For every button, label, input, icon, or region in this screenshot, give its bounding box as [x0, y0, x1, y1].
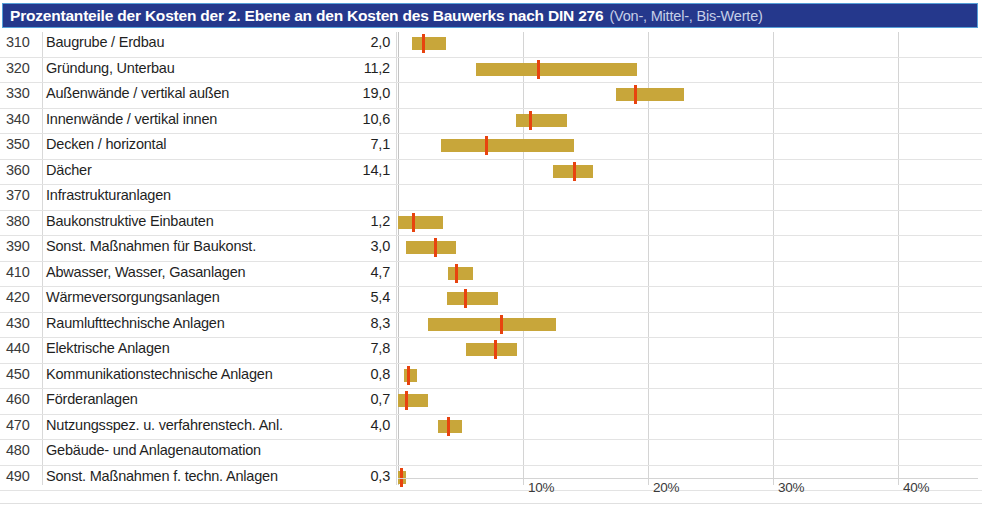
- range-bar[interactable]: [441, 139, 575, 152]
- data-rows: 310Baugrube / Erdbau2,0320Gründung, Unte…: [0, 32, 982, 491]
- mean-marker[interactable]: [422, 34, 425, 53]
- row-label: Dächer: [46, 162, 346, 178]
- mean-marker[interactable]: [500, 315, 503, 334]
- row-code: 380: [6, 213, 42, 229]
- range-bar[interactable]: [438, 420, 462, 433]
- row-value: 4,7: [330, 264, 390, 280]
- mean-marker[interactable]: [447, 417, 450, 436]
- x-tick-label-10: 10%: [528, 480, 554, 495]
- x-tick-label-40: 40%: [903, 480, 929, 495]
- table-row[interactable]: 380Baukonstruktive Einbauten1,2: [0, 211, 982, 237]
- row-value: 1,2: [330, 213, 390, 229]
- chart-title-bar: Prozentanteile der Kosten der 2. Ebene a…: [2, 3, 978, 28]
- x-axis-labels: 10%20%30%40%: [0, 480, 982, 502]
- table-row[interactable]: 330Außenwände / vertikal außen19,0: [0, 83, 982, 109]
- table-row[interactable]: 410Abwasser, Wasser, Gasanlagen4,7: [0, 262, 982, 288]
- row-value: 11,2: [330, 60, 390, 76]
- table-row[interactable]: 460Förderanlagen0,7: [0, 389, 982, 415]
- row-code: 310: [6, 34, 42, 50]
- row-code: 480: [6, 442, 42, 458]
- range-bar[interactable]: [476, 63, 637, 76]
- row-label: Sonst. Maßnahmen für Baukonst.: [46, 238, 346, 254]
- range-bar[interactable]: [466, 343, 517, 356]
- mean-marker[interactable]: [573, 162, 576, 181]
- row-label: Innenwände / vertikal innen: [46, 111, 346, 127]
- bottom-border: [0, 503, 982, 504]
- mean-marker[interactable]: [434, 238, 437, 257]
- range-bar[interactable]: [448, 267, 473, 280]
- range-bar[interactable]: [398, 394, 428, 407]
- table-row[interactable]: 440Elektrische Anlagen7,8: [0, 338, 982, 364]
- range-bar[interactable]: [406, 241, 456, 254]
- mean-marker[interactable]: [537, 60, 540, 79]
- range-bar[interactable]: [428, 318, 556, 331]
- row-value: 19,0: [330, 85, 390, 101]
- row-value: 0,8: [330, 366, 390, 382]
- table-row[interactable]: 310Baugrube / Erdbau2,0: [0, 32, 982, 58]
- row-value: 10,6: [330, 111, 390, 127]
- row-code: 390: [6, 238, 42, 254]
- mean-marker[interactable]: [455, 264, 458, 283]
- row-value: 7,8: [330, 340, 390, 356]
- row-label: Raumlufttechnische Anlagen: [46, 315, 346, 331]
- row-value: 14,1: [330, 162, 390, 178]
- mean-marker[interactable]: [494, 340, 497, 359]
- table-row[interactable]: 360Dächer14,1: [0, 160, 982, 186]
- row-label: Kommunikationstechnische Anlagen: [46, 366, 346, 382]
- table-row[interactable]: 340Innenwände / vertikal innen10,6: [0, 109, 982, 135]
- row-value: 8,3: [330, 315, 390, 331]
- table-row[interactable]: 480Gebäude- und Anlagenautomation: [0, 440, 982, 466]
- row-label: Elektrische Anlagen: [46, 340, 346, 356]
- row-code: 420: [6, 289, 42, 305]
- page-title-subtitle: (Von-, Mittel-, Bis-Werte): [609, 8, 762, 24]
- row-code: 360: [6, 162, 42, 178]
- row-label: Wärmeversorgungsanlagen: [46, 289, 346, 305]
- table-row[interactable]: 320Gründung, Unterbau11,2: [0, 58, 982, 84]
- range-bar[interactable]: [616, 88, 685, 101]
- row-label: Nutzungsspez. u. verfahrenstech. Anl.: [46, 417, 346, 433]
- page-title: Prozentanteile der Kosten der 2. Ebene a…: [10, 7, 603, 25]
- row-code: 430: [6, 315, 42, 331]
- row-code: 320: [6, 60, 42, 76]
- row-code: 370: [6, 187, 42, 203]
- table-row[interactable]: 450Kommunikationstechnische Anlagen0,8: [0, 364, 982, 390]
- row-label: Förderanlagen: [46, 391, 346, 407]
- range-bar[interactable]: [398, 216, 443, 229]
- row-label: Infrastrukturanlagen: [46, 187, 346, 203]
- row-value: 3,0: [330, 238, 390, 254]
- table-row[interactable]: 370Infrastrukturanlagen: [0, 185, 982, 211]
- row-code: 440: [6, 340, 42, 356]
- row-code: 330: [6, 85, 42, 101]
- row-label: Baugrube / Erdbau: [46, 34, 346, 50]
- row-value: 2,0: [330, 34, 390, 50]
- range-bar[interactable]: [516, 114, 567, 127]
- mean-marker[interactable]: [529, 111, 532, 130]
- row-code: 410: [6, 264, 42, 280]
- table-row[interactable]: 390Sonst. Maßnahmen für Baukonst.3,0: [0, 236, 982, 262]
- row-code: 460: [6, 391, 42, 407]
- mean-marker[interactable]: [464, 289, 467, 308]
- axis-baseline: [398, 478, 978, 479]
- x-tick-label-20: 20%: [653, 480, 679, 495]
- row-label: Gebäude- und Anlagenautomation: [46, 442, 346, 458]
- table-row[interactable]: 420Wärmeversorgungsanlagen5,4: [0, 287, 982, 313]
- row-label: Abwasser, Wasser, Gasanlagen: [46, 264, 346, 280]
- row-label: Außenwände / vertikal außen: [46, 85, 346, 101]
- mean-marker[interactable]: [485, 136, 488, 155]
- row-code: 350: [6, 136, 42, 152]
- table-row[interactable]: 350Decken / horizontal7,1: [0, 134, 982, 160]
- row-value: 0,7: [330, 391, 390, 407]
- table-row[interactable]: 430Raumlufttechnische Anlagen8,3: [0, 313, 982, 339]
- table-row[interactable]: 470Nutzungsspez. u. verfahrenstech. Anl.…: [0, 415, 982, 441]
- row-code: 450: [6, 366, 42, 382]
- mean-marker[interactable]: [634, 85, 637, 104]
- mean-marker[interactable]: [405, 391, 408, 410]
- range-bar[interactable]: [447, 292, 498, 305]
- mean-marker[interactable]: [412, 213, 415, 232]
- mean-marker[interactable]: [407, 366, 410, 385]
- x-tick-label-30: 30%: [778, 480, 804, 495]
- row-value: 4,0: [330, 417, 390, 433]
- row-value: 5,4: [330, 289, 390, 305]
- row-value: 7,1: [330, 136, 390, 152]
- range-bar[interactable]: [412, 37, 446, 50]
